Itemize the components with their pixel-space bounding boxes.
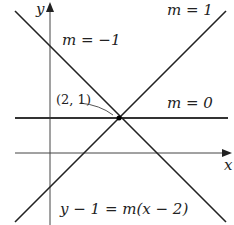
- point-2-1: [117, 116, 122, 121]
- equation-label: y − 1 = m(x − 2): [60, 200, 188, 218]
- label-m0: m = 0: [167, 94, 213, 112]
- label-m1: m = 1: [167, 1, 213, 19]
- x-axis-label: x: [224, 156, 232, 174]
- label-m-neg1: m = −1: [62, 31, 120, 49]
- point-label: (2, 1): [56, 92, 91, 107]
- y-axis-label: y: [36, 0, 44, 18]
- y-axis-arrow-icon: [46, 2, 54, 12]
- diagram: y x m = 1 m = −1 m = 0 (2, 1) y − 1 = m(…: [0, 0, 234, 225]
